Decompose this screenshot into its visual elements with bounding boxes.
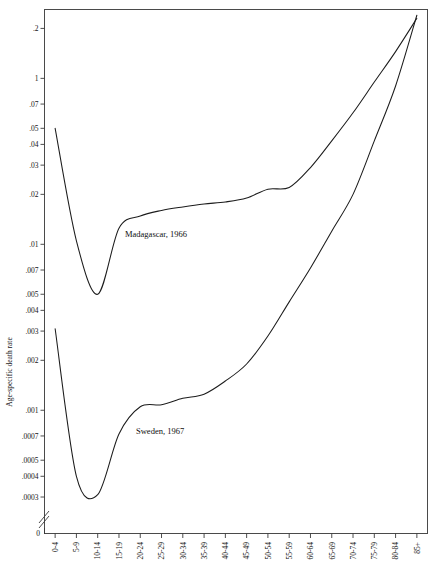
x-tick-label: 70-74 [349,542,358,560]
y-tick-label: .001 [25,406,38,415]
y-tick-label: .2 [33,24,39,33]
x-tick-label: 30-34 [179,542,188,560]
x-tick-label: 15-19 [115,542,124,560]
x-tick-label: 0-4 [51,542,60,552]
y-tick-label: .007 [25,266,38,275]
x-tick-label: 25-29 [157,542,166,560]
y-tick-label: .004 [25,306,38,315]
y-tick-label: .0003 [22,493,39,502]
x-tick-label: 60-64 [306,542,315,560]
x-tick-label: 40-44 [221,542,230,560]
death-rate-line-chart: .0003.0004.0005.0007.001.002.003.004.005… [0,0,439,583]
y-tick-label: .07 [29,100,39,109]
y-tick-label: .0007 [22,432,39,441]
chart-background [0,0,439,583]
y-tick-label: .002 [25,356,38,365]
y-tick-label-zero: 0 [36,529,40,538]
y-tick-label: .003 [25,327,38,336]
x-tick-label: 85+ [413,542,422,554]
x-tick-label: 45-49 [242,542,251,560]
x-tick-label: 35-39 [200,542,209,560]
x-tick-label: 10-14 [93,542,102,560]
x-tick-label: 75-79 [370,542,379,560]
y-axis-title: Age-specific death rate [5,337,14,407]
y-tick-label: .005 [25,290,38,299]
y-tick-label: .02 [29,190,39,199]
series-annotation-sweden: Sweden, 1967 [136,426,184,436]
x-tick-label: 80-84 [391,542,400,560]
y-tick-label: .03 [29,161,39,170]
y-tick-label: .01 [29,240,39,249]
x-tick-label: 50-54 [264,542,273,560]
y-tick-label: .04 [29,140,39,149]
y-tick-label: .0004 [22,472,39,481]
figure-container: .0003.0004.0005.0007.001.002.003.004.005… [0,0,439,583]
y-tick-label: .05 [29,124,39,133]
x-tick-label: 20-24 [136,542,145,560]
y-tick-label: 1 [35,74,39,83]
series-annotation-madagascar: Madagascar, 1966 [125,229,187,239]
x-tick-label: 55-59 [285,542,294,560]
y-tick-label: .0005 [22,456,39,465]
x-tick-label: 65-69 [328,542,337,560]
x-tick-label: 5-9 [72,542,81,552]
